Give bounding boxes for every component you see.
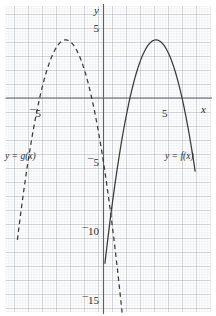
x-tick-label-5: 5 (162, 107, 168, 119)
label-y-equals-g-of-x: y = g(x) (4, 151, 36, 162)
y-tick-label-neg10: ¯10 (82, 225, 100, 237)
x-axis-label: x (200, 103, 206, 115)
y-tick-label-neg5: ¯5 (87, 156, 100, 168)
coordinate-plane: ¯5 5 5 ¯5 ¯10 ¯15 y x y = g(x) y = f(x) (0, 0, 216, 316)
label-y-equals-f-of-x: y = f(x) (164, 151, 194, 162)
y-tick-label-neg15: ¯15 (82, 294, 100, 306)
graph-figure: ¯5 5 5 ¯5 ¯10 ¯15 y x y = g(x) y = f(x) (0, 0, 216, 316)
y-tick-label-5: 5 (94, 22, 100, 34)
y-axis-label: y (93, 4, 99, 16)
